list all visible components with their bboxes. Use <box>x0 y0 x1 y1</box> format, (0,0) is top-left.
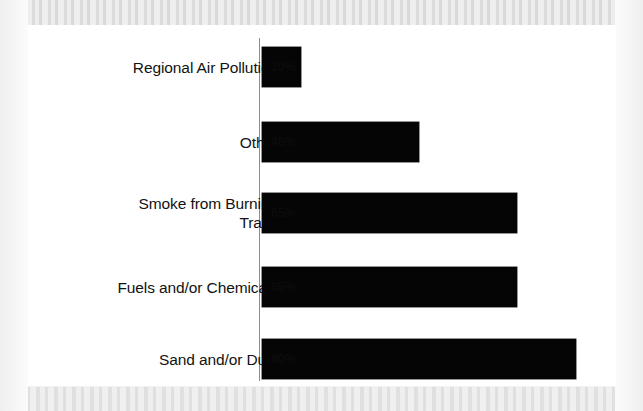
bar-track: 10% <box>262 47 301 87</box>
bar-chart: Regional Air Pollution 10% Other 40% Smo… <box>28 25 616 386</box>
bar-category-label: Fuels and/or Chemicals <box>48 265 278 309</box>
bar-fill <box>262 339 576 379</box>
bar-category-label: Sand and/or Dust <box>48 337 278 381</box>
bar-fill <box>262 193 517 233</box>
bar-value-label: 65% <box>271 280 295 294</box>
bar-fill <box>262 267 517 307</box>
bar-track: 65% <box>262 267 517 307</box>
scan-artifact-left-margin <box>0 0 28 411</box>
bar-track: 80% <box>262 339 576 379</box>
bar-value-label: 80% <box>271 352 295 366</box>
bar-category-label: Smoke from Burning Trash <box>48 191 278 235</box>
bar-value-label: 40% <box>271 135 295 149</box>
bar-row: Fuels and/or Chemicals 65% <box>28 265 616 309</box>
bar-value-label: 65% <box>271 206 295 220</box>
bar-category-label: Regional Air Pollution <box>48 45 278 89</box>
bar-track: 65% <box>262 193 517 233</box>
scanned-page: Regional Air Pollution 10% Other 40% Smo… <box>0 0 643 411</box>
bar-row: Sand and/or Dust 80% <box>28 337 616 381</box>
scan-artifact-top-band <box>0 0 643 26</box>
bar-row: Other 40% <box>28 120 616 164</box>
scan-artifact-bottom-band <box>0 387 643 411</box>
bar-row: Smoke from Burning Trash 65% <box>28 191 616 235</box>
bar-category-label: Other <box>48 120 278 164</box>
scan-artifact-right-margin <box>615 0 643 411</box>
bar-track: 40% <box>262 122 419 162</box>
bar-value-label: 10% <box>271 60 295 74</box>
bar-row: Regional Air Pollution 10% <box>28 45 616 89</box>
